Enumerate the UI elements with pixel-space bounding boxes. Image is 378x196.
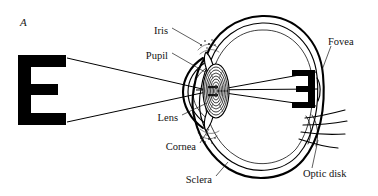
label-fovea: Fovea (328, 36, 354, 47)
leader-fovea (322, 46, 331, 70)
lens (203, 64, 229, 118)
leader-iris (172, 28, 200, 44)
label-lens: Lens (158, 112, 178, 123)
eye-diagram-canvas: A (0, 0, 378, 196)
label-sclera: Sclera (186, 174, 213, 185)
light-ray-upper (67, 58, 316, 106)
light-ray-lower (67, 72, 316, 122)
panel-letter: A (19, 16, 27, 28)
eye-optics-figure: A (0, 0, 378, 196)
stimulus-letter-e (18, 55, 66, 125)
label-optic-disk: Optic disk (303, 168, 347, 179)
leader-pupil (172, 53, 205, 72)
label-iris: Iris (154, 25, 168, 36)
label-pupil: Pupil (146, 50, 168, 61)
label-cornea: Cornea (166, 141, 197, 152)
